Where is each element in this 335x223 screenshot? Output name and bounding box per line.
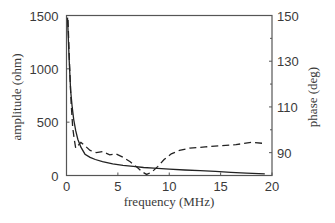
amplitude-series-line (68, 18, 265, 174)
y-tick-label: 500 (37, 115, 59, 130)
x-axis-label: frequency (MHz) (124, 194, 215, 209)
plot-area: 05101520 050010001500 90110130150 (30, 9, 299, 194)
y-tick-label: 1000 (30, 62, 59, 77)
plot-frame (67, 16, 273, 176)
x-tick-label: 20 (265, 179, 279, 194)
right-y-axis-label: phase (deg) (305, 67, 320, 127)
x-tick-label: 15 (213, 179, 227, 194)
y2-tick-label: 90 (277, 146, 291, 161)
left-y-axis-label: amplitude (ohm) (9, 53, 24, 140)
left-y-axis-ticks: 050010001500 (30, 9, 70, 184)
y-tick-label: 1500 (30, 9, 59, 24)
x-tick-label: 5 (114, 179, 121, 194)
x-tick-label: 0 (63, 179, 70, 194)
x-tick-label: 10 (162, 179, 176, 194)
y2-tick-label: 130 (277, 54, 299, 69)
phase-series-line (68, 20, 265, 174)
y2-tick-label: 150 (277, 9, 299, 24)
y2-tick-label: 110 (277, 100, 298, 115)
right-y-axis-ticks: 90110130150 (269, 9, 299, 161)
impedance-chart: 05101520 050010001500 90110130150 freque… (0, 0, 335, 223)
y-tick-label: 0 (51, 169, 58, 184)
